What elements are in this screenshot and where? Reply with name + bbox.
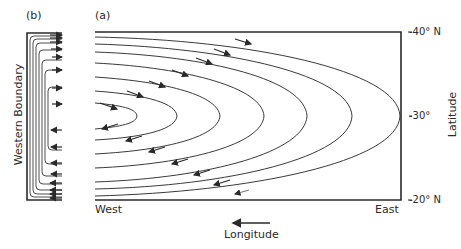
basin-panel [95,32,401,200]
panel-a-label: (a) [95,9,110,22]
east-label: East [375,203,399,216]
longitude-label: Longitude [224,228,279,241]
western-boundary-label: Western Boundary [12,60,25,170]
latitude-label: Latitude [446,85,459,145]
lat-tick-30: -30° [409,110,430,121]
lat-tick-20: -20° N [409,194,441,205]
panel-b-label: (b) [26,9,42,22]
western-boundary-panel [27,33,62,200]
lat-tick-40: -40° N [409,26,441,37]
west-label: West [95,203,122,216]
